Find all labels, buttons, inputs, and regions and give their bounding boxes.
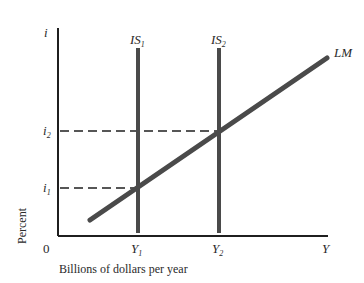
lm-label: LM (333, 45, 353, 60)
is2-label: IS2 (210, 32, 226, 49)
lm-curve (90, 58, 327, 220)
i1-tick-label: i1 (43, 180, 51, 197)
y2-tick-label: Y2 (212, 241, 223, 258)
y-axis-title: Percent (15, 207, 29, 244)
y-axis-label: i (44, 25, 48, 40)
x-axis-title: Billions of dollars per year (59, 262, 188, 276)
is1-label: IS1 (129, 32, 145, 49)
y1-tick-label: Y1 (131, 241, 142, 258)
x-axis-label: Y (322, 241, 331, 256)
origin-label: 0 (43, 241, 50, 256)
i2-tick-label: i2 (43, 123, 51, 140)
is-lm-diagram: i IS1 IS2 LM i2 i1 0 Y1 Y2 Y Billions of… (0, 0, 364, 283)
